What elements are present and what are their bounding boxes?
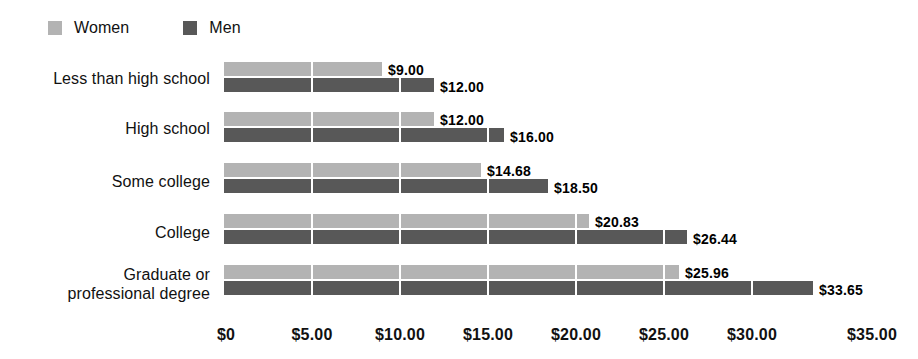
gridline-15 <box>487 179 489 193</box>
gridline-10 <box>399 78 401 92</box>
bar-value-men-high-school: $16.00 <box>510 129 554 145</box>
bar-men-some-college <box>224 179 548 193</box>
gridline-30 <box>751 281 753 295</box>
bar-women-high-school <box>224 112 434 126</box>
xtick-label-0: $0 <box>217 326 235 344</box>
xtick-label-20: $20.00 <box>551 326 601 344</box>
gridline-15 <box>487 265 489 295</box>
bar-women-college <box>224 214 589 228</box>
bar-men-less-than-high-school <box>224 78 434 92</box>
xtick-label-10: $10.00 <box>375 326 425 344</box>
bar-chart: Women Men Less than high school High sch… <box>0 0 918 359</box>
category-label-college: College <box>14 223 210 242</box>
gridline-20 <box>575 214 577 244</box>
bar-women-graduate-or-professional-degree <box>224 265 679 279</box>
bar-value-men-college: $26.44 <box>693 231 737 247</box>
category-label-less-than-high-school: Less than high school <box>14 69 210 88</box>
bar-value-women-less-than-high-school: $9.00 <box>388 62 424 78</box>
gridline-5 <box>311 214 313 244</box>
gridline-10 <box>399 112 401 142</box>
category-label-graduate-or-professional-degree: Graduate or professional degree <box>14 265 210 303</box>
xtick-label-5: $5.00 <box>291 326 332 344</box>
bar-women-some-college <box>224 163 481 177</box>
gridline-10 <box>399 214 401 244</box>
bar-men-high-school <box>224 128 504 142</box>
gridline-5 <box>311 163 313 193</box>
gridline-5 <box>311 62 313 92</box>
bar-value-men-some-college: $18.50 <box>554 180 598 196</box>
bar-women-less-than-high-school <box>224 62 382 76</box>
bar-value-women-some-college: $14.68 <box>487 163 531 179</box>
plot-area: Less than high school High school Some c… <box>0 0 918 359</box>
gridline-15 <box>487 214 489 244</box>
gridline-20 <box>575 265 577 295</box>
bar-value-men-less-than-high-school: $12.00 <box>440 79 484 95</box>
bar-value-men-graduate-or-professional-degree: $33.65 <box>819 282 863 298</box>
gridline-15 <box>487 128 489 142</box>
gridline-10 <box>399 163 401 193</box>
bar-value-women-college: $20.83 <box>595 214 639 230</box>
gridline-5 <box>311 112 313 142</box>
bar-men-college <box>224 230 687 244</box>
category-label-high-school: High school <box>14 119 210 138</box>
xtick-label-30: $30.00 <box>727 326 777 344</box>
bar-value-women-graduate-or-professional-degree: $25.96 <box>685 265 729 281</box>
gridline-25 <box>663 265 665 295</box>
gridline-25 <box>663 230 665 244</box>
gridline-5 <box>311 265 313 295</box>
bar-value-women-high-school: $12.00 <box>440 112 484 128</box>
xtick-label-15: $15.00 <box>463 326 513 344</box>
gridline-10 <box>399 265 401 295</box>
xtick-label-35: $35.00 <box>847 326 897 344</box>
xtick-label-25: $25.00 <box>639 326 689 344</box>
category-label-some-college: Some college <box>14 172 210 191</box>
